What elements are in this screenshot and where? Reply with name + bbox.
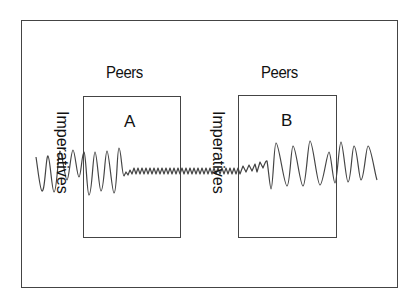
- imperatives-label-b: Imperatives: [209, 111, 227, 194]
- box-b-label: B: [281, 111, 292, 131]
- box-a-label: A: [124, 112, 135, 132]
- imperatives-label-a: Imperatives: [53, 111, 71, 194]
- peers-heading-b: Peers: [261, 63, 298, 83]
- peers-heading-a: Peers: [106, 63, 143, 83]
